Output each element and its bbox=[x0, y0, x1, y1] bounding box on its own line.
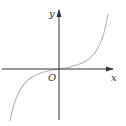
function-graph: y O x bbox=[0, 0, 126, 126]
y-axis-label: y bbox=[48, 8, 55, 19]
x-axis-label: x bbox=[111, 72, 117, 83]
origin-label: O bbox=[48, 72, 56, 83]
